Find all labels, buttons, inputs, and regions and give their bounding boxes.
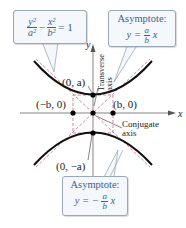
- equation-minus: −: [39, 22, 45, 33]
- equation-frac-1: y² a²: [27, 17, 36, 38]
- co-vertex-right-label: (b, 0): [113, 98, 137, 110]
- vertex-bottom-label: (0, −a): [56, 160, 85, 172]
- asymptote-positive-title: Asymptote:: [109, 14, 175, 25]
- equation-rhs: = 1: [58, 22, 72, 33]
- asymptote-positive-frac: a b: [144, 26, 151, 45]
- x-axis-arrow-icon: [168, 111, 176, 116]
- asymptote-positive-callout: Asymptote: y = a b x: [108, 10, 176, 47]
- asymptote-negative-callout: Asymptote: y = − a b x: [62, 176, 128, 216]
- equation-frac-2: x² b²: [47, 17, 56, 38]
- asymptote-negative-x: x: [111, 194, 116, 205]
- asymptote-negative-den: b: [102, 202, 107, 211]
- asymptote-positive-x: x: [153, 28, 158, 39]
- asymptote-negative-title: Asymptote:: [63, 180, 127, 191]
- conjugate-leader-line: [96, 116, 122, 128]
- asymptote-negative-equation: y = − a b x: [63, 192, 127, 211]
- equation-num-1: y²: [27, 17, 36, 28]
- co-vertex-right-point: [110, 110, 115, 115]
- equation-den-2: b²: [48, 28, 56, 38]
- center-point: [90, 110, 95, 115]
- asymptote-negative-yeq: y = −: [75, 194, 99, 205]
- vertex-bottom-point: [90, 130, 95, 135]
- y-axis-arrow-icon: [91, 44, 96, 52]
- asymptote-negative-num: a: [101, 192, 108, 202]
- vertex-top-label: (0, a): [62, 76, 85, 88]
- co-vertex-left-point: [70, 110, 75, 115]
- transverse-axis-label-2: axis: [104, 77, 114, 91]
- asymptote-positive-den: b: [145, 36, 150, 45]
- equation-den-1: a²: [28, 28, 36, 38]
- equation-callout-pointer: [42, 42, 58, 72]
- vertex-bottom-leader-line: [88, 135, 92, 160]
- equation-callout: y² a² − x² b² = 1: [13, 10, 87, 44]
- conjugate-axis-label-2: axis: [122, 129, 159, 138]
- asymptote-negative-frac: a b: [101, 192, 108, 211]
- vertex-top-point: [90, 92, 95, 97]
- asymptote-positive-num: a: [144, 26, 151, 36]
- vertex-top-leader-line: [88, 86, 92, 93]
- asymptote-positive-equation: y = a b x: [109, 26, 175, 45]
- x-axis-label: x: [177, 108, 183, 119]
- asymptote-positive-yeq: y =: [127, 28, 141, 39]
- equation-num-2: x²: [47, 17, 56, 28]
- asymptote-neg-callout-pointer: [104, 150, 118, 177]
- asymptote-pos-callout-pointer: [114, 44, 138, 82]
- conjugate-axis-label: Conjugate axis: [122, 120, 159, 138]
- co-vertex-left-label: (−b, 0): [36, 98, 66, 110]
